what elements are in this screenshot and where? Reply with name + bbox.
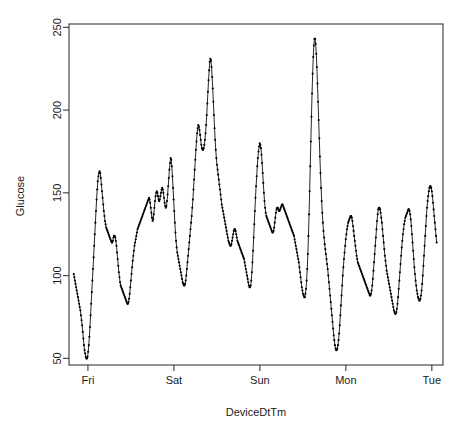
data-point xyxy=(188,248,190,250)
data-point xyxy=(214,127,216,129)
data-point xyxy=(381,228,383,230)
data-point xyxy=(200,139,202,141)
data-point xyxy=(253,223,255,225)
data-point xyxy=(130,273,132,275)
y-tick-label: 150 xyxy=(51,184,63,202)
data-point xyxy=(342,266,344,268)
data-point xyxy=(224,220,226,222)
data-point xyxy=(177,255,179,257)
data-point xyxy=(175,240,177,242)
data-point xyxy=(262,182,264,184)
chart-canvas: 50100150200250 FriSatSunMonTue DeviceDtT… xyxy=(0,0,468,440)
data-point xyxy=(116,251,118,253)
data-point xyxy=(164,202,166,204)
data-point xyxy=(99,172,101,174)
data-point xyxy=(339,314,341,316)
data-point xyxy=(235,230,237,232)
data-point xyxy=(380,212,382,214)
data-point xyxy=(343,258,345,260)
data-point xyxy=(214,139,216,141)
data-point xyxy=(133,250,135,252)
data-point xyxy=(316,83,318,85)
data-point xyxy=(345,233,347,235)
data-point xyxy=(90,314,92,316)
data-point xyxy=(301,286,303,288)
data-point xyxy=(115,245,117,247)
data-point xyxy=(118,276,120,278)
data-point xyxy=(230,243,232,245)
data-point xyxy=(295,245,297,247)
data-point xyxy=(159,198,161,200)
data-point xyxy=(345,238,347,240)
data-point xyxy=(247,281,249,283)
data-point xyxy=(315,43,317,45)
data-point xyxy=(246,275,248,277)
data-point xyxy=(195,140,197,142)
data-point xyxy=(185,275,187,277)
data-point xyxy=(215,157,217,159)
data-point xyxy=(387,276,389,278)
data-point xyxy=(96,198,98,200)
data-point xyxy=(259,144,261,146)
data-point xyxy=(88,336,90,338)
data-point xyxy=(426,207,428,209)
data-point xyxy=(304,296,306,298)
data-point xyxy=(372,278,374,280)
data-point xyxy=(198,129,200,131)
data-point xyxy=(210,59,212,61)
data-point xyxy=(307,235,309,237)
data-point xyxy=(188,241,190,243)
x-tick-label: Tue xyxy=(423,374,442,386)
data-point xyxy=(395,311,397,313)
data-point xyxy=(189,235,191,237)
data-point xyxy=(198,126,200,128)
data-point xyxy=(272,230,274,232)
data-point xyxy=(90,303,92,305)
data-point xyxy=(339,324,341,326)
data-point xyxy=(410,218,412,220)
data-point xyxy=(184,283,186,285)
data-point xyxy=(380,217,382,219)
data-point xyxy=(399,271,401,273)
data-point xyxy=(92,268,94,270)
data-point xyxy=(327,275,329,277)
data-point xyxy=(95,210,97,212)
data-point xyxy=(305,288,307,290)
data-point xyxy=(157,195,159,197)
data-point xyxy=(372,270,374,272)
data-point xyxy=(398,288,400,290)
data-point xyxy=(255,185,257,187)
data-point xyxy=(353,235,355,237)
data-point xyxy=(166,200,168,202)
data-point xyxy=(247,278,249,280)
data-point xyxy=(333,339,335,341)
data-point xyxy=(409,213,411,215)
data-point xyxy=(154,200,156,202)
data-point xyxy=(333,334,335,336)
data-point xyxy=(195,149,197,151)
data-point xyxy=(222,210,224,212)
data-point xyxy=(227,236,229,238)
data-point xyxy=(173,198,175,200)
data-point xyxy=(431,190,433,192)
data-point xyxy=(82,331,84,333)
data-point xyxy=(133,245,135,247)
data-point xyxy=(256,165,258,167)
data-point xyxy=(384,260,386,262)
data-point xyxy=(316,66,318,68)
data-point xyxy=(341,284,343,286)
data-point xyxy=(390,296,392,298)
data-point xyxy=(115,240,117,242)
data-point xyxy=(153,213,155,215)
data-point xyxy=(81,319,83,321)
data-point xyxy=(170,159,172,161)
data-point xyxy=(180,271,182,273)
data-point xyxy=(327,268,329,270)
data-point xyxy=(390,293,392,295)
data-point xyxy=(351,217,353,219)
data-point xyxy=(434,228,436,230)
data-point xyxy=(192,188,194,190)
data-point xyxy=(392,303,394,305)
data-point xyxy=(152,218,154,220)
data-point xyxy=(232,233,234,235)
